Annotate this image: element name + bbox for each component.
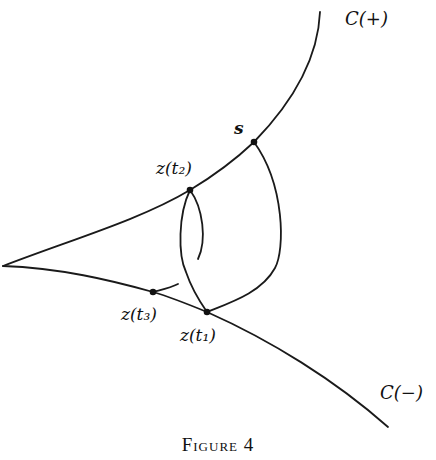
curve-c-plus — [3, 12, 320, 266]
label-z-t3: z(t₃) — [121, 306, 157, 323]
label-z-t2: z(t₂) — [156, 160, 192, 177]
arc-s-to-zt1 — [207, 142, 281, 312]
point-zt2 — [187, 187, 194, 194]
point-zt1 — [204, 309, 211, 316]
figure-caption: Figure 4 — [0, 434, 436, 456]
arc-zt2-short — [190, 190, 203, 259]
arc-zt2-to-zt1-left — [180, 190, 207, 312]
arc-zt3-hook — [153, 284, 178, 292]
point-zt3 — [150, 289, 157, 296]
figure-diagram — [0, 0, 436, 460]
label-s: s — [234, 120, 244, 137]
point-s — [251, 139, 258, 146]
label-c-minus: C(−) — [380, 384, 423, 402]
label-c-plus: C(+) — [345, 10, 388, 28]
label-z-t1: z(t₁) — [180, 327, 216, 344]
curve-c-minus — [3, 266, 388, 427]
